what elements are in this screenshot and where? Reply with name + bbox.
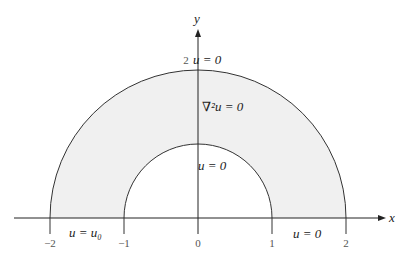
tick-label-neg2: −2 [44,237,56,249]
y-tick-label-2: 2 [183,54,189,66]
x-axis-label: x [389,210,395,226]
half-annulus-diagram: x y −2 −1 0 1 2 2 u = 0 ∇²u = 0 u = 0 u … [0,0,406,262]
pde-label: ∇²u = 0 [202,99,243,115]
diagram-canvas [0,0,406,262]
tick-label-0: 0 [195,237,201,249]
y-axis-label: y [194,11,200,27]
tick-label-1: 1 [269,237,275,249]
tick-label-2: 2 [343,237,349,249]
outer-boundary-label: u = 0 [193,52,221,68]
right-boundary-label: u = 0 [293,226,321,242]
inner-boundary-label: u = 0 [198,158,226,174]
tick-label-neg1: −1 [118,237,130,249]
left-boundary-label: u = u₀ [69,225,102,241]
x-axis-arrow-icon [378,215,386,221]
y-axis-arrow-icon [195,29,201,37]
